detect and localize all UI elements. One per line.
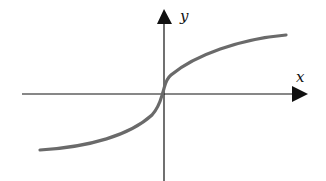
y-axis-arrow-icon	[157, 9, 172, 24]
function-curve	[40, 35, 286, 150]
y-axis-label: y	[179, 7, 189, 25]
x-axis-label: x	[296, 68, 305, 86]
x-axis-arrow-icon	[292, 86, 308, 102]
graph-canvas: y x	[0, 0, 326, 181]
function-graph-diagram: y x	[0, 0, 326, 181]
